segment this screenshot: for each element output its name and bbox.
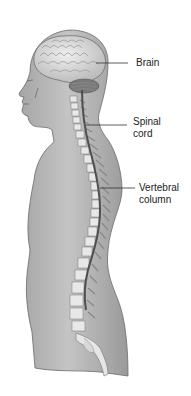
- label-spinal-cord-1: Spinal: [133, 116, 161, 127]
- label-spinal-cord-2: cord: [133, 128, 152, 139]
- label-vertebral-column-1: Vertebral: [139, 182, 179, 193]
- label-vertebral-column-2: column: [139, 194, 171, 205]
- label-brain: Brain: [136, 57, 159, 68]
- brain-shape: [34, 36, 106, 83]
- cerebellum: [69, 79, 99, 93]
